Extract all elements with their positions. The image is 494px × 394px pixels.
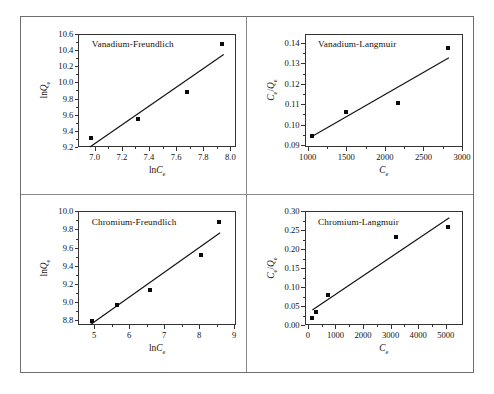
panel-title: Chromium-Langmuir	[318, 217, 399, 227]
x-axis-tick	[129, 325, 130, 329]
x-axis-label: lnCe	[149, 343, 165, 355]
figure-frame: Vanadium-Freundlich9.29.49.69.810.010.21…	[20, 16, 474, 373]
x-axis-tick-label: 1500	[338, 152, 355, 162]
y-axis-label: lnQe	[39, 260, 51, 277]
plot-area	[78, 211, 236, 325]
y-axis-tick-label: 9.4	[63, 126, 74, 136]
y-axis-tick-label: 0.25	[285, 225, 300, 235]
panel-title: Vanadium-Freundlich	[92, 39, 174, 49]
x-axis-tick-label: 2000	[354, 330, 371, 340]
data-point	[199, 253, 203, 257]
y-axis-tick	[301, 306, 305, 307]
panel-cell-vanadium-langmuir: Vanadium-Langmuir0.090.100.110.120.130.1…	[247, 17, 473, 195]
x-axis-minor-tick	[404, 147, 405, 149]
y-axis-minor-tick	[303, 240, 305, 241]
y-axis-minor-tick	[303, 135, 305, 136]
y-axis-tick-label: 0.14	[285, 38, 300, 48]
x-axis-minor-tick	[404, 325, 405, 327]
x-axis-minor-tick	[349, 325, 350, 327]
y-axis-minor-tick	[76, 42, 78, 43]
x-axis-tick	[94, 325, 95, 329]
y-axis-tick	[301, 84, 305, 85]
x-axis-tick-label: 7.8	[198, 152, 209, 162]
x-axis-tick	[462, 147, 463, 151]
data-point-value: 8.57, 9.88	[21, 195, 22, 196]
x-axis-minor-tick	[163, 147, 164, 149]
y-axis-tick-label: 0.09	[285, 140, 300, 150]
x-axis-tick-label: 7.2	[116, 152, 127, 162]
panel-title: Vanadium-Langmuir	[318, 39, 396, 49]
x-axis-tick	[122, 147, 123, 151]
x-axis-tick	[423, 147, 424, 151]
y-axis-tick	[75, 66, 79, 67]
data-point	[136, 117, 140, 121]
x-axis-minor-tick	[108, 147, 109, 149]
x-axis-tick-label: 7.6	[171, 152, 182, 162]
y-axis-minor-tick	[303, 278, 305, 279]
x-axis-label: Ce	[379, 343, 388, 355]
x-axis-tick	[391, 325, 392, 329]
y-axis-tick-label: 10.0	[58, 206, 73, 216]
y-axis-label: lnQe	[39, 82, 51, 99]
x-axis-tick-label: 7	[162, 330, 166, 340]
y-axis-minor-tick	[76, 275, 78, 276]
y-axis-minor-tick	[76, 107, 78, 108]
y-axis-tick	[75, 115, 79, 116]
data-point	[314, 310, 318, 314]
y-axis-minor-tick	[76, 239, 78, 240]
data-point	[217, 220, 221, 224]
chart-panel-1: Vanadium-Langmuir0.090.100.110.120.130.1…	[247, 17, 473, 194]
x-axis-tick-label: 4000	[410, 330, 427, 340]
y-axis-tick	[75, 34, 79, 35]
x-axis-tick-label: 8	[197, 330, 201, 340]
x-axis-minor-tick	[135, 147, 136, 149]
y-axis-label: Ce/Qe	[266, 80, 278, 101]
y-axis-tick-label: 0.20	[285, 244, 300, 254]
y-axis-tick	[301, 325, 305, 326]
x-axis-minor-tick	[112, 325, 113, 327]
x-axis-tick	[199, 325, 200, 329]
x-axis-tick	[176, 147, 177, 151]
x-axis-tick-label: 6	[127, 330, 131, 340]
y-axis-tick-label: 10.2	[58, 61, 73, 71]
y-axis-tick	[75, 266, 79, 267]
y-axis-tick	[75, 82, 79, 83]
data-point-value: 7.32, 9.55	[21, 17, 22, 18]
y-axis-minor-tick	[76, 293, 78, 294]
y-axis-tick-label: 0.10	[285, 120, 300, 130]
x-axis-tick	[308, 147, 309, 151]
x-axis-minor-tick	[217, 325, 218, 327]
y-axis-tick-label: 0.10	[285, 282, 300, 292]
y-axis-minor-tick	[303, 297, 305, 298]
data-point	[310, 134, 314, 138]
data-point-value: 6.6, 9.135	[21, 195, 22, 196]
y-axis-tick	[301, 249, 305, 250]
x-axis-tick-label: 7.0	[89, 152, 100, 162]
y-axis-minor-tick	[76, 139, 78, 140]
x-axis-tick-label: 2500	[415, 152, 432, 162]
y-axis-minor-tick	[76, 90, 78, 91]
y-axis-tick	[301, 268, 305, 269]
y-axis-tick	[75, 50, 79, 51]
x-axis-tick	[230, 147, 231, 151]
y-axis-minor-tick	[76, 257, 78, 258]
y-axis-tick-label: 9.8	[63, 94, 74, 104]
x-axis-tick	[203, 147, 204, 151]
x-axis-minor-tick	[217, 147, 218, 149]
data-point	[310, 316, 314, 320]
x-axis-tick	[149, 147, 150, 151]
y-axis-tick	[75, 131, 79, 132]
data-point	[185, 90, 189, 94]
x-axis-tick	[234, 325, 235, 329]
data-point-value: 7.68, 9.88	[21, 17, 22, 18]
y-axis-tick	[75, 284, 79, 285]
y-axis-minor-tick	[76, 123, 78, 124]
x-axis-tick-label: 9	[232, 330, 236, 340]
y-axis-minor-tick	[76, 220, 78, 221]
y-axis-tick-label: 0.12	[285, 79, 300, 89]
chart-panel-2: Chromium-Freundlich8.89.09.29.49.69.810.…	[21, 195, 246, 373]
data-point	[396, 101, 400, 105]
y-axis-tick-label: 10.6	[58, 29, 73, 39]
chart-panel-0: Vanadium-Freundlich9.29.49.69.810.010.21…	[21, 17, 246, 194]
y-axis-tick-label: 0.00	[285, 320, 300, 330]
